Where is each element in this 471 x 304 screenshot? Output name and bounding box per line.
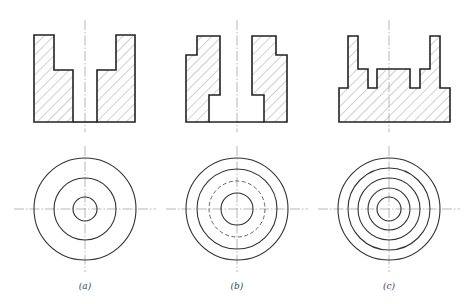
section-c-fill [339, 36, 450, 122]
panel-c: (c) [318, 20, 460, 291]
panel-a: (a) [14, 20, 156, 291]
panel-b-label: (b) [231, 281, 244, 291]
drawing-canvas: (a) (b) (c) [0, 0, 471, 304]
panel-c-label: (c) [383, 281, 396, 291]
section-b-left-fill [186, 36, 220, 122]
panel-a-label: (a) [79, 281, 92, 291]
section-b-right-fill [252, 36, 287, 122]
panel-b: (b) [166, 20, 308, 291]
